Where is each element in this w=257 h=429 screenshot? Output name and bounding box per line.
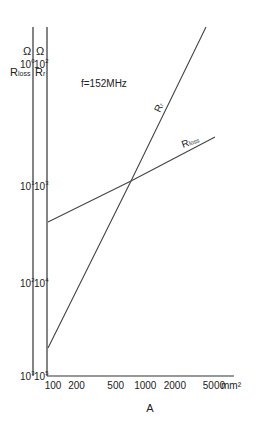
series-label-rloss: Rloss [180, 133, 201, 149]
y-unit-rr: Ω [36, 45, 44, 57]
x-unit-label: mm² [221, 380, 242, 391]
chart: ΩΩRlossRr1001011021031021031041051002005… [0, 0, 257, 429]
x-tick-label: 500 [107, 380, 124, 391]
series-line-rr [48, 27, 206, 348]
x-axis-title: A [146, 402, 154, 414]
y-unit-rloss: Ω [23, 45, 31, 57]
frequency-annotation: f=152MHz [81, 78, 127, 89]
x-tick-label: 200 [68, 380, 85, 391]
x-tick-label: 100 [45, 380, 62, 391]
series-label-rr: Rr [152, 101, 166, 114]
x-tick-label: 1000 [134, 380, 157, 391]
x-tick-label: 2000 [164, 380, 187, 391]
